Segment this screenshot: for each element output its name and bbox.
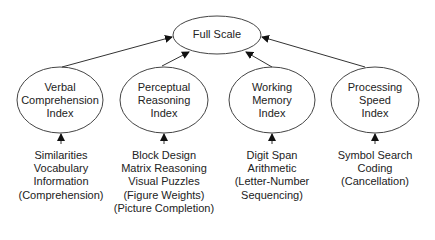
subtest-item: Matrix Reasoning bbox=[104, 162, 224, 175]
label-line: Perceptual bbox=[120, 81, 208, 94]
label-line: Processing bbox=[331, 81, 419, 94]
subtest-item: Coding bbox=[315, 162, 435, 175]
subtest-item: Visual Puzzles bbox=[104, 175, 224, 188]
subtest-item: Block Design bbox=[104, 149, 224, 162]
processing-speed-subtests: Symbol Search Coding (Cancellation) bbox=[315, 149, 435, 189]
verbal-subtests: Similarities Vocabulary Information (Com… bbox=[1, 149, 121, 202]
perceptual-reasoning-label: Perceptual Reasoning Index bbox=[120, 81, 208, 121]
label-line: Index bbox=[120, 107, 208, 120]
label-line: Index bbox=[229, 107, 315, 120]
subtest-item: Arithmetic bbox=[212, 162, 332, 175]
working-memory-subtests: Digit Span Arithmetic (Letter-Number Seq… bbox=[212, 149, 332, 202]
subtest-item: Similarities bbox=[1, 149, 121, 162]
subtest-item: Vocabulary bbox=[1, 162, 121, 175]
label-line: Memory bbox=[229, 94, 315, 107]
label-line: Reasoning bbox=[120, 94, 208, 107]
perceptual-subtests: Block Design Matrix Reasoning Visual Puz… bbox=[104, 149, 224, 215]
label-line: Index bbox=[331, 107, 419, 120]
full-scale-text: Full Scale bbox=[193, 28, 241, 40]
edge-perceptual-to-full bbox=[162, 52, 189, 66]
edge-processing-to-full bbox=[262, 37, 365, 67]
subtest-item: (Picture Completion) bbox=[104, 202, 224, 215]
label-line: Index bbox=[17, 107, 103, 120]
working-memory-label: Working Memory Index bbox=[229, 81, 315, 121]
label-line: Verbal bbox=[17, 81, 103, 94]
edge-verbal-to-full bbox=[62, 37, 172, 67]
subtest-item: Sequencing) bbox=[212, 189, 332, 202]
label-line: Comprehension bbox=[17, 94, 103, 107]
label-line: Speed bbox=[331, 94, 419, 107]
label-line: Working bbox=[229, 81, 315, 94]
subtest-item: Digit Span bbox=[212, 149, 332, 162]
subtest-item: Information bbox=[1, 175, 121, 188]
subtest-item: Symbol Search bbox=[315, 149, 435, 162]
subtest-item: (Cancellation) bbox=[315, 175, 435, 188]
processing-speed-label: Processing Speed Index bbox=[331, 81, 419, 121]
full-scale-label: Full Scale bbox=[173, 28, 261, 41]
subtest-item: (Figure Weights) bbox=[104, 189, 224, 202]
subtest-item: (Letter-Number bbox=[212, 175, 332, 188]
verbal-comprehension-label: Verbal Comprehension Index bbox=[17, 81, 103, 121]
edge-working-to-full bbox=[246, 52, 272, 67]
subtest-item: (Comprehension) bbox=[1, 189, 121, 202]
